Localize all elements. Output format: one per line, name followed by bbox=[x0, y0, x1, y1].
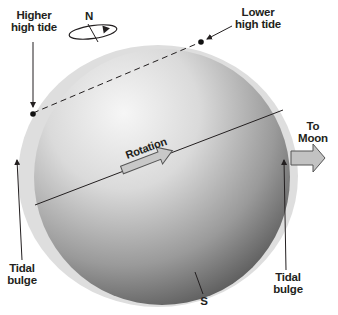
lower-high-tide-point bbox=[198, 39, 204, 45]
tidal-diagram: N Higher high tide Lower high tide To Mo… bbox=[0, 0, 338, 315]
earth-sphere bbox=[34, 49, 290, 305]
label-to-moon: To Moon bbox=[295, 120, 331, 144]
label-lower-high-tide: Lower high tide bbox=[234, 6, 282, 30]
label-north: N bbox=[82, 10, 96, 22]
label-south: S bbox=[198, 295, 210, 307]
rotation-arrowhead-icon bbox=[102, 24, 110, 33]
label-tidal-bulge-left: Tidal bulge bbox=[4, 262, 40, 286]
lower-high-tide-leader bbox=[207, 26, 232, 39]
label-tidal-bulge-right: Tidal bulge bbox=[270, 271, 306, 295]
label-higher-high-tide: Higher high tide bbox=[6, 9, 62, 33]
higher-high-tide-point bbox=[30, 111, 36, 117]
